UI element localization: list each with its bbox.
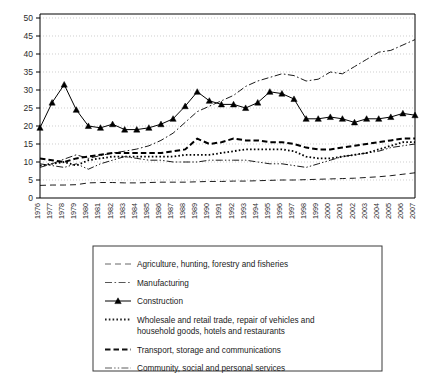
x-axis-label: 1998 [299, 203, 308, 219]
data-point-marker [194, 89, 200, 95]
x-axis-label: 1992 [227, 203, 236, 219]
data-point-marker [49, 100, 55, 106]
x-axis-label: 2007 [408, 203, 417, 219]
x-axis-label: 1990 [202, 203, 211, 219]
x-axis-label: 1994 [251, 203, 260, 219]
legend-label: Community, social and personal services [137, 364, 285, 373]
x-axis-label: 2000 [323, 203, 332, 219]
x-axis-label: 1993 [239, 203, 248, 219]
y-axis-label: 20 [24, 121, 34, 131]
legend-label: Wholesale and retail trade, repair of ve… [137, 316, 315, 325]
y-axis-label: 25 [24, 103, 34, 113]
data-point-marker [327, 114, 333, 120]
data-point-marker [61, 82, 67, 88]
series-line [40, 40, 415, 168]
x-axis-label: 1986 [154, 203, 163, 219]
chart-container: 05101520253035404550 1976197719781979198… [0, 0, 430, 384]
x-axis-label: 1983 [118, 203, 127, 219]
series-line [40, 173, 415, 186]
x-axis-label: 2002 [348, 203, 357, 219]
y-axis-label: 50 [24, 13, 34, 23]
legend-label: Transport, storage and communications [137, 346, 281, 355]
x-axis-label: 1987 [166, 203, 175, 219]
line-chart: 05101520253035404550 1976197719781979198… [0, 0, 430, 384]
x-axis-label: 1982 [106, 203, 115, 219]
data-point-marker [73, 107, 79, 113]
y-axis-label: 45 [24, 31, 34, 41]
x-axis-label: 1981 [93, 203, 102, 219]
x-axis-label: 1984 [130, 203, 139, 219]
data-point-marker [291, 96, 297, 102]
x-axis-label: 2004 [372, 203, 381, 219]
legend-label: Manufacturing [137, 279, 189, 288]
x-axis-label: 2001 [335, 203, 344, 219]
y-axis-label: 15 [24, 139, 34, 149]
data-point-marker [206, 98, 212, 104]
y-axis-label: 30 [24, 85, 34, 95]
x-axis-label: 1988 [178, 203, 187, 219]
legend-label: Agriculture, hunting, forestry and fishe… [137, 260, 288, 269]
x-axis-label: 1985 [142, 203, 151, 219]
x-axis-label: 1979 [69, 203, 78, 219]
x-axis-label: 1995 [263, 203, 272, 219]
x-axis-label: 1991 [214, 203, 223, 219]
data-point-marker [267, 89, 273, 95]
x-axis-label: 2005 [384, 203, 393, 219]
series-line [40, 85, 415, 130]
y-axis-label: 10 [24, 157, 34, 167]
x-axis-label: 1999 [311, 203, 320, 219]
legend: Agriculture, hunting, forestry and fishe… [93, 246, 382, 373]
legend-label-continued: household goods, hotels and restaurants [137, 327, 285, 336]
x-axis-labels: 1976197719781979198019811982198319841985… [33, 203, 417, 219]
y-axis-labels: 05101520253035404550 [24, 13, 34, 203]
x-axis-label: 1978 [57, 203, 66, 219]
gridlines [40, 18, 415, 180]
series-layer [37, 40, 418, 186]
x-axis-label: 1996 [275, 203, 284, 219]
y-axis-ticks [36, 18, 40, 198]
plot-frame [40, 14, 415, 198]
x-axis-label: 2006 [396, 203, 405, 219]
x-axis-label: 2003 [360, 203, 369, 219]
y-axis-label: 5 [28, 175, 33, 185]
x-axis-label: 1980 [81, 203, 90, 219]
x-axis-label: 1977 [45, 203, 54, 219]
y-axis-label: 0 [28, 193, 33, 203]
y-axis-label: 35 [24, 67, 34, 77]
data-point-marker [109, 121, 115, 127]
x-axis-label: 1997 [287, 203, 296, 219]
data-point-marker [158, 121, 164, 127]
data-point-marker [400, 110, 406, 116]
y-axis-label: 40 [24, 49, 34, 59]
legend-label: Construction [137, 297, 183, 306]
x-axis-label: 1976 [33, 203, 42, 219]
x-axis-label: 1989 [190, 203, 199, 219]
